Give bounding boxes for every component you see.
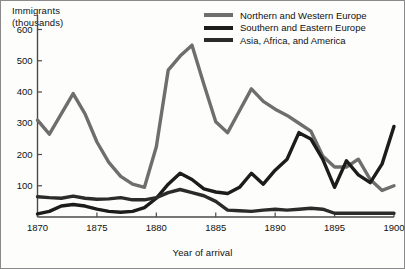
legend-item: Asia, Africa, and America (204, 34, 367, 47)
legend-item-label: Southern and Eastern Europe (240, 22, 366, 33)
chart-legend: Northern and Western EuropeSouthern and … (204, 9, 367, 47)
legend-item: Northern and Western Europe (204, 9, 367, 22)
legend-item: Southern and Eastern Europe (204, 22, 367, 35)
immigration-line-chart-figure: Immigrants (thousands) Year of arrival 1… (0, 0, 405, 269)
legend-item-label: Asia, Africa, and America (240, 35, 346, 46)
series-line-0 (38, 45, 395, 190)
legend-color-swatch (204, 38, 233, 42)
legend-color-swatch (204, 26, 233, 30)
data-series-lines (38, 45, 395, 214)
legend-color-swatch (204, 13, 233, 17)
legend-item-label: Northern and Western Europe (240, 10, 367, 21)
